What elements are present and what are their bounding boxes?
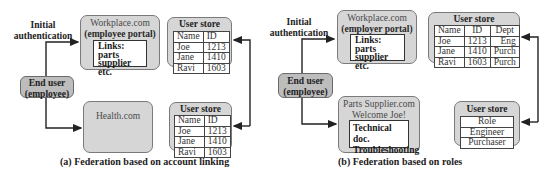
table-row: Ravi1603Purch <box>435 57 520 68</box>
table-row: Jane1410 <box>174 53 230 64</box>
table-row: Jane1410 <box>175 137 231 148</box>
cell: 1410 <box>203 53 229 64</box>
parts-supplier-title: Parts Supplier.com <box>339 99 419 110</box>
end-user-line: (employee) <box>279 87 332 98</box>
table-row: Joe1213Eng <box>435 36 520 47</box>
caption-a: (a) Federation based on account linking <box>60 156 229 167</box>
link-parts-supplier[interactable]: parts supplier <box>98 51 142 68</box>
header-name: Name <box>175 116 205 127</box>
table-row: Engineer <box>461 127 514 138</box>
user-store-title: User store <box>429 14 519 25</box>
end-user-line: End user <box>21 78 73 89</box>
end-user-line: End user <box>279 76 332 87</box>
cell: Joe <box>174 42 204 53</box>
links-panel: Links: parts supplier etc. <box>350 34 405 61</box>
workplace-portal-box-a: Workplace.com (employee portal) Links: p… <box>80 15 160 70</box>
cell: 1603 <box>203 63 229 74</box>
link-etc[interactable]: etc. <box>98 68 142 77</box>
header-id: ID <box>464 26 490 37</box>
initial-authentication-label-a: Initial authentication <box>12 20 74 42</box>
parts-links-panel: Technical doc. Troubleshooting <box>349 120 409 148</box>
cell: Role <box>461 117 514 128</box>
header-dept: Dept <box>490 26 519 37</box>
initial-authentication-label-b: Initial authentication <box>268 17 330 39</box>
user-store-top-a: User store NameID Joe1213 Jane1410 Ravi1… <box>167 17 232 67</box>
link-parts-supplier[interactable]: parts supplier <box>355 45 400 62</box>
cell: Joe <box>175 126 205 137</box>
cell: Jane <box>435 47 465 58</box>
user-store-roles: User store Role Engineer Purchaser <box>454 101 520 146</box>
table-row: Jane1410Purch <box>435 47 520 58</box>
cell: Jane <box>175 137 205 148</box>
caption-b: (b) Federation based on roles <box>338 156 462 167</box>
cell: Eng <box>490 36 519 47</box>
label-line: Initial <box>268 17 330 28</box>
parts-supplier-box: Parts Supplier.com Welcome Joe! Technica… <box>338 96 420 153</box>
workplace-title: Workplace.com <box>338 13 416 24</box>
end-user-a: End user (employee) <box>20 76 74 98</box>
cell: 1213 <box>464 36 490 47</box>
user-store-title: User store <box>170 104 231 115</box>
cell: 1213 <box>204 126 230 137</box>
cell: 1410 <box>204 137 230 148</box>
user-store-table: NameID Joe1213 Jane1410 Ravi1603 <box>173 31 230 74</box>
cell: Joe <box>435 36 465 47</box>
cell: Engineer <box>461 127 514 138</box>
user-store-title: User store <box>455 104 519 115</box>
label-line: Initial <box>12 20 74 31</box>
end-user-line: (employee) <box>21 89 73 100</box>
user-store-bottom-a: User store NameID Joe1213 Jane1410 Ravi1… <box>169 102 232 151</box>
label-line: authentication <box>12 31 74 42</box>
end-user-b: End user (employee) <box>278 73 333 98</box>
header-name: Name <box>174 32 204 43</box>
table-row: Joe1213 <box>175 126 231 137</box>
user-store-table: NameIDDept Joe1213Eng Jane1410Purch Ravi… <box>434 25 520 68</box>
health-box: Health.com <box>83 101 153 153</box>
user-store-top-b: User store NameIDDept Joe1213Eng Jane141… <box>428 12 520 63</box>
link-technical-doc[interactable]: Technical doc. <box>353 123 405 145</box>
label-line: authentication <box>268 28 330 39</box>
table-row: Ravi1603 <box>174 63 230 74</box>
header-id: ID <box>203 32 229 43</box>
table-row: Purchaser <box>461 138 514 149</box>
health-title: Health.com <box>84 111 152 122</box>
cell: Ravi <box>435 57 465 68</box>
header-name: Name <box>435 26 465 37</box>
table-row: Joe1213 <box>174 42 230 53</box>
roles-table: Role Engineer Purchaser <box>460 116 514 149</box>
cell: 1213 <box>203 42 229 53</box>
cell: Jane <box>174 53 204 64</box>
cell: 1410 <box>464 47 490 58</box>
user-store-title: User store <box>168 19 231 30</box>
user-store-table: NameID Joe1213 Jane1410 Ravi1603 <box>174 115 231 158</box>
workplace-portal-box-b: Workplace.com (employer portal) Links: p… <box>337 10 417 64</box>
link-troubleshooting[interactable]: Troubleshooting <box>353 145 405 156</box>
table-row: Role <box>461 117 514 128</box>
workplace-subtitle: (employee portal) <box>81 29 159 40</box>
links-panel: Links: parts supplier etc. <box>93 40 147 67</box>
workplace-title: Workplace.com <box>81 18 159 29</box>
cell: Ravi <box>174 63 204 74</box>
cell: Purchaser <box>461 138 514 149</box>
cell: Purch <box>490 57 519 68</box>
header-id: ID <box>204 116 230 127</box>
cell: Purch <box>490 47 519 58</box>
link-etc[interactable]: etc. <box>355 62 400 71</box>
cell: 1603 <box>464 57 490 68</box>
